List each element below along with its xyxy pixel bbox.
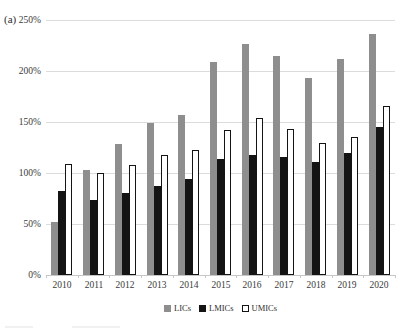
bar-LMICs-2016 [249,155,256,275]
chart-figure: (a) 0%50%100%150%200%250%201020112012201… [0,0,403,330]
x-axis-tick-label: 2017 [275,280,294,290]
bar-UMICs-2014 [192,150,199,275]
bar-LMICs-2014 [185,179,192,275]
y-axis-tick-label: 50% [0,219,41,229]
bar-UMICs-2016 [256,118,263,275]
legend-label: LICs [174,303,191,313]
bar-UMICs-2015 [224,130,231,275]
bar-LMICs-2017 [280,157,287,275]
y-axis-tick-label: 200% [0,66,41,76]
gridline-250 [46,20,395,21]
bar-LICs-2015 [210,62,217,275]
x-axis-tick [78,275,79,278]
x-axis-tick [205,275,206,278]
cutoff-artifact [5,326,33,328]
bar-UMICs-2013 [161,155,168,275]
x-axis-tick [332,275,333,278]
bar-LMICs-2013 [154,186,161,275]
legend-item-UMICs: UMICs [242,303,278,313]
y-axis-tick-label: 250% [0,15,41,25]
bar-LICs-2016 [242,44,249,275]
x-axis-tick [300,275,301,278]
x-axis-tick [268,275,269,278]
chart-legend: LICsLMICsUMICs [46,303,395,313]
bar-LMICs-2010 [58,191,65,275]
bar-UMICs-2011 [97,173,104,275]
bar-UMICs-2017 [287,129,294,275]
legend-swatch-LMICs [199,305,206,312]
bar-UMICs-2018 [319,143,326,275]
y-axis-tick-label: 150% [0,117,41,127]
bar-UMICs-2012 [129,165,136,275]
x-axis-tick [173,275,174,278]
x-axis-tick-label: 2010 [53,280,72,290]
legend-swatch-UMICs [242,305,249,312]
y-axis-tick-label: 0% [0,270,41,280]
bar-LMICs-2011 [90,200,97,275]
bar-LICs-2014 [178,115,185,275]
bar-LMICs-2018 [312,162,319,275]
x-axis-tick-label: 2019 [338,280,357,290]
bar-LMICs-2012 [122,193,129,275]
legend-swatch-LICs [164,305,171,312]
bar-UMICs-2019 [351,137,358,275]
bar-UMICs-2020 [383,106,390,275]
bar-LICs-2012 [115,144,122,275]
x-axis-tick-label: 2012 [116,280,135,290]
bar-LICs-2017 [273,56,280,275]
bar-LICs-2018 [305,78,312,275]
legend-label: LMICs [209,303,234,313]
bar-LICs-2013 [147,123,154,275]
x-axis-tick-label: 2014 [180,280,199,290]
bar-LMICs-2015 [217,159,224,275]
x-axis-tick [395,275,396,278]
bar-LICs-2010 [51,222,58,275]
x-axis-tick-label: 2011 [85,280,104,290]
x-axis-tick-label: 2015 [212,280,231,290]
legend-item-LICs: LICs [164,303,191,313]
x-axis-tick [236,275,237,278]
x-axis-tick-label: 2020 [370,280,389,290]
x-axis-tick [363,275,364,278]
bar-LICs-2011 [83,170,90,275]
bar-chart-plot-area: 0%50%100%150%200%250%2010201120122013201… [0,0,403,330]
bar-UMICs-2010 [65,164,72,275]
cutoff-artifact [72,326,120,328]
x-axis-tick-label: 2018 [307,280,326,290]
bar-LMICs-2020 [376,127,383,275]
x-axis-tick [46,275,47,278]
legend-item-LMICs: LMICs [199,303,234,313]
x-axis-tick-label: 2013 [148,280,167,290]
bar-LMICs-2019 [344,153,351,275]
gridline-0 [46,275,395,276]
x-axis-tick [109,275,110,278]
y-axis-tick-label: 100% [0,168,41,178]
legend-label: UMICs [252,303,278,313]
x-axis-tick [141,275,142,278]
x-axis-tick-label: 2016 [243,280,262,290]
bar-LICs-2020 [369,34,376,275]
bar-LICs-2019 [337,59,344,275]
